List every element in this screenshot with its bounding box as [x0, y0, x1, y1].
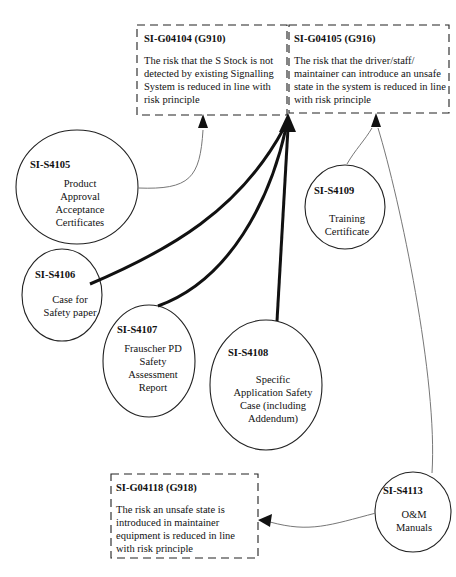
goal-text: The risk that the S Stock is not detecte…: [144, 54, 282, 106]
solution-text-line: Manuals: [383, 521, 445, 534]
arrowhead-icon: [258, 514, 272, 527]
goal-id: SI-G04118 (G918): [116, 481, 256, 494]
solution-s4107: SI-S4107 Frauscher PD Safety Assessment …: [117, 323, 189, 394]
solution-text-line: Approval: [30, 190, 130, 203]
arrowhead-icon: [198, 114, 208, 128]
solution-text-line: Certificate: [314, 225, 380, 238]
solution-s4105: SI-S4105 Product Approval Acceptance Cer…: [30, 158, 130, 229]
link-s4105-to-g04104: [138, 130, 203, 188]
solution-text-line: Product: [30, 177, 130, 190]
solution-id: SI-S4109: [314, 184, 380, 197]
solution-text-line: Safety: [117, 355, 189, 368]
goal-text: The risk an unsafe state is introduced i…: [116, 503, 256, 555]
link-s4113-to-g04118: [270, 513, 376, 527]
solution-text-line: Specific: [228, 373, 318, 386]
solution-s4109: SI-S4109 Training Certificate: [314, 184, 380, 238]
solution-id: SI-S4105: [30, 158, 130, 171]
solution-text-line: Case for: [35, 293, 105, 306]
link-s4113-to-g04105: [378, 128, 433, 473]
solution-id: SI-S4108: [228, 346, 318, 359]
solution-text-line: Application Safety: [228, 386, 318, 399]
solution-text-line: Report: [117, 381, 189, 394]
arrowhead-icon: [371, 113, 381, 127]
solution-id: SI-S4107: [117, 323, 189, 336]
solution-text-line: Assessment: [117, 368, 189, 381]
goal-text: The risk that the driver/staff/ maintain…: [294, 54, 446, 106]
solution-s4106: SI-S4106 Case for Safety paper: [35, 268, 105, 319]
goal-id: SI-G04105 (G916): [294, 32, 446, 45]
goal-g04104: SI-G04104 (G910) The risk that the S Sto…: [144, 32, 282, 106]
solution-text-line: Addendum): [228, 412, 318, 425]
solution-text-line: Acceptance: [30, 203, 130, 216]
goal-id: SI-G04104 (G910): [144, 32, 282, 45]
goal-g04118: SI-G04118 (G918) The risk an unsafe stat…: [116, 481, 256, 555]
solution-s4108: SI-S4108 Specific Application Safety Cas…: [228, 346, 318, 425]
solution-text-line: Case (including: [228, 399, 318, 412]
solution-id: SI-S4106: [35, 268, 105, 281]
goal-g04105: SI-G04105 (G916) The risk that the drive…: [294, 32, 446, 106]
solution-id: SI-S4113: [383, 484, 445, 497]
link-s4109-to-g04105: [347, 128, 372, 164]
solution-text-line: O&M: [383, 508, 445, 521]
solution-text-line: Safety paper: [35, 306, 105, 319]
solution-text-line: Training: [314, 212, 380, 225]
arrowhead-icon: [279, 113, 296, 132]
solution-s4113: SI-S4113 O&M Manuals: [383, 484, 445, 534]
solution-text-line: Certificates: [30, 216, 130, 229]
solution-text-line: Frauscher PD: [117, 342, 189, 355]
